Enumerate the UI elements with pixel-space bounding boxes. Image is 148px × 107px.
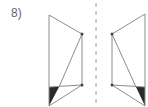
left-upper-dot <box>81 33 84 36</box>
right-diagonal <box>112 34 136 87</box>
left-horizontal <box>49 85 82 87</box>
left-diagonal <box>59 34 82 87</box>
right-shape <box>111 14 146 106</box>
right-horizontal <box>112 85 145 87</box>
right-lower-dot <box>111 84 114 87</box>
symmetry-figure <box>0 0 148 107</box>
right-upper-dot <box>111 33 114 36</box>
left-shape <box>49 15 84 106</box>
left-lower-dot <box>81 84 84 87</box>
